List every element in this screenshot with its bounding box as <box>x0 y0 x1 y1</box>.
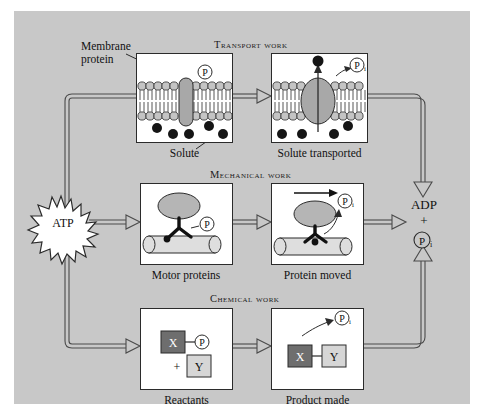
phosphate-release-transport: P i <box>336 58 366 76</box>
phosphate-group-chemical-before: P <box>195 335 209 349</box>
svg-text:i: i <box>364 65 366 73</box>
arrow-mechanical-left-to-right <box>233 215 271 229</box>
motor-protein-before-graphic: P <box>141 184 232 264</box>
caption-reactants: Reactants <box>140 394 233 404</box>
pi-product-symbol: P i <box>406 227 446 253</box>
panel-transport-after: P i <box>271 53 368 143</box>
arrow-transport-to-adp <box>363 94 432 197</box>
panel-transport-before: P <box>136 53 233 143</box>
svg-text:P: P <box>204 219 210 230</box>
annotation-membrane-protein-line2: protein <box>81 53 131 66</box>
adp-label: ADP <box>398 197 450 213</box>
membrane-protein-shape <box>179 78 193 126</box>
svg-text:i: i <box>349 318 351 326</box>
svg-text:P: P <box>339 313 345 324</box>
product-x-label: X <box>296 350 305 364</box>
panel-chemical-before: X P + Y <box>140 308 233 390</box>
svg-text:P: P <box>342 196 348 207</box>
svg-text:P: P <box>199 337 205 348</box>
reactants-graphic: X P + Y <box>141 309 232 389</box>
arrow-atp-to-chemical <box>65 239 140 353</box>
product-y-label: Y <box>330 350 339 364</box>
caption-solute-transported: Solute transported <box>266 147 373 159</box>
svg-text:P: P <box>354 60 360 71</box>
motion-direction-arrow <box>294 189 338 197</box>
heading-chemical-work: Chemical work <box>210 293 279 304</box>
phosphate-group-transport-before: P <box>198 65 212 79</box>
panel-chemical-after: P i X Y <box>271 308 364 390</box>
svg-text:P: P <box>202 67 208 78</box>
arrow-chemical-left-to-right <box>233 339 271 353</box>
heading-transport-work: Transport work <box>214 39 288 50</box>
transport-before-graphic: P <box>137 54 232 142</box>
svg-text:i: i <box>352 201 354 209</box>
phosphate-group-mechanical-before: P <box>191 217 214 231</box>
chemical-plus-sign: + <box>174 360 181 374</box>
transport-after-graphic: P i <box>272 54 367 142</box>
atp-label: ATP <box>40 216 86 231</box>
atp-energy-coupling-figure: .dbl{fill:none;stroke:#4a4a4a;stroke-wid… <box>14 11 470 404</box>
caption-product-made: Product made <box>266 394 369 404</box>
panel-mechanical-after: P i <box>271 183 364 265</box>
caption-motor-proteins: Motor proteins <box>132 269 240 281</box>
solute-transported-dot <box>313 56 324 67</box>
motor-protein-after-graphic: P i <box>272 184 363 264</box>
panel-mechanical-before: P <box>140 183 233 265</box>
svg-text:P: P <box>419 235 425 247</box>
reactant-y-label: Y <box>195 360 204 374</box>
annotation-membrane-protein-line1: Membrane <box>81 40 131 53</box>
reactant-x-label: X <box>169 336 178 350</box>
filament-cylinder-before <box>143 236 221 253</box>
motor-protein-head-after <box>294 201 336 227</box>
annotation-membrane-protein: Membrane protein <box>81 40 131 65</box>
arrow-chemical-to-pi <box>363 246 432 348</box>
svg-text:i: i <box>430 240 433 249</box>
motor-protein-head-before <box>158 193 200 219</box>
phosphate-release-chemical: P i <box>302 311 351 336</box>
caption-solute: Solute <box>136 147 233 159</box>
product-graphic: P i X Y <box>272 309 363 389</box>
heading-mechanical-work: Mechanical work <box>210 169 291 180</box>
arrow-transport-left-to-right <box>233 89 271 103</box>
caption-protein-moved: Protein moved <box>266 269 369 281</box>
